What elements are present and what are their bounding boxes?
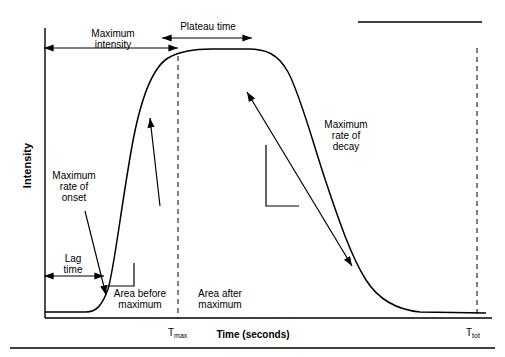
annotation-maximum-rate-of-onset: Maximum rate of onset (43, 170, 105, 203)
annotation-plateau-time: Plateau time (162, 21, 254, 32)
x-tick-label-tmax: Tmax (168, 327, 187, 341)
annotation-area-before-maximum: Area before maximum (104, 288, 176, 310)
annotation-area-after-maximum: Area after maximum (184, 288, 256, 310)
y-axis-title: Intensity (22, 121, 33, 211)
annotation-maximum-rate-of-decay: Maximum rate of decay (313, 119, 379, 152)
annotation-lag-time: Lag time (45, 253, 101, 275)
figure-canvas: Intensity Time (seconds) Tmax Ttot Maxim… (0, 0, 505, 357)
maximum-rate-of-onset-arrow (150, 118, 160, 206)
x-tick-label-ttot: Ttot (466, 327, 480, 341)
maximum-rate-of-decay-triangle (266, 145, 299, 206)
annotation-maximum-intensity: Maximum intensity (66, 28, 160, 50)
x-axis-title: Time (seconds) (198, 329, 308, 340)
